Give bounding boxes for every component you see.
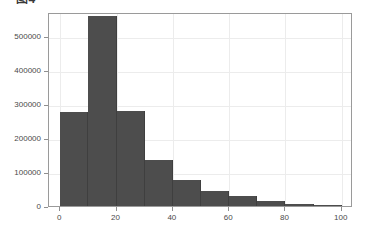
x-tick-mark (284, 207, 285, 211)
histogram-bar (285, 204, 313, 206)
bars-group (49, 14, 351, 206)
histogram-bar (201, 191, 229, 206)
x-tick-label: 80 (280, 213, 289, 222)
y-tick-label: 300000 (14, 100, 41, 109)
histogram-bar (145, 160, 173, 206)
histogram-figure: 图4 0100000200000300000400000500000 02040… (0, 0, 368, 233)
figure-caption: 图4 (16, 0, 36, 6)
histogram-bar (314, 205, 342, 206)
y-tick-mark (44, 207, 48, 208)
histogram-bar (173, 180, 201, 206)
x-tick-label: 40 (167, 213, 176, 222)
histogram-bar (257, 201, 285, 206)
x-tick-label: 20 (111, 213, 120, 222)
x-tick-label: 0 (57, 213, 61, 222)
x-tick-mark (172, 207, 173, 211)
y-tick-label: 0 (37, 202, 41, 211)
y-tick-label: 400000 (14, 66, 41, 75)
histogram-bar (229, 196, 257, 206)
x-tick-mark (341, 207, 342, 211)
histogram-bar (88, 16, 116, 206)
x-tick-mark (59, 207, 60, 211)
x-tick-mark (116, 207, 117, 211)
histogram-bar (60, 112, 88, 206)
histogram-bar (117, 111, 145, 206)
plot-area (48, 13, 352, 207)
y-tick-label: 500000 (14, 32, 41, 41)
x-tick-label: 60 (224, 213, 233, 222)
y-tick-label: 200000 (14, 134, 41, 143)
x-tick-mark (228, 207, 229, 211)
y-tick-label: 100000 (14, 168, 41, 177)
x-tick-label: 100 (334, 213, 347, 222)
